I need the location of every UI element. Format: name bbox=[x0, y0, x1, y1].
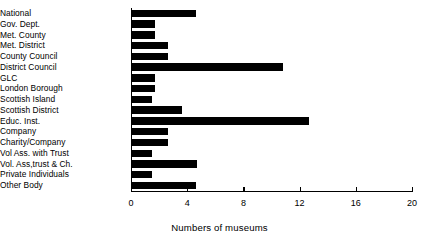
bar-row bbox=[131, 62, 412, 73]
x-axis-tick-label: 20 bbox=[398, 198, 426, 209]
x-axis-title: Numbers of museums bbox=[0, 222, 439, 233]
x-axis-tick bbox=[356, 187, 357, 192]
x-axis-tick-label: 4 bbox=[173, 198, 201, 209]
bar-row bbox=[131, 30, 412, 41]
bar-row bbox=[131, 8, 412, 19]
bar bbox=[131, 128, 168, 135]
bar-row bbox=[131, 137, 412, 148]
category-label: Scottish District bbox=[0, 105, 124, 116]
bar-row bbox=[131, 51, 412, 62]
bar bbox=[131, 63, 283, 70]
category-label: Vol Ass. with Trust bbox=[0, 148, 124, 159]
bar bbox=[131, 85, 155, 92]
category-label: Private Individuals bbox=[0, 169, 124, 180]
category-label: London Borough bbox=[0, 83, 124, 94]
bar bbox=[131, 160, 197, 167]
bar-row bbox=[131, 159, 412, 170]
bar bbox=[131, 42, 168, 49]
bar bbox=[131, 20, 155, 27]
category-label: Scottish Island bbox=[0, 94, 124, 105]
category-label: GLC bbox=[0, 73, 124, 84]
bar bbox=[131, 182, 196, 189]
category-label: Vol. Ass,trust & Ch. bbox=[0, 159, 124, 170]
category-label: Met. County bbox=[0, 30, 124, 41]
category-label: Met. District bbox=[0, 40, 124, 51]
bar bbox=[131, 10, 196, 17]
category-label: Company bbox=[0, 126, 124, 137]
x-axis-tick bbox=[243, 187, 244, 192]
x-axis-tick bbox=[131, 187, 132, 192]
bar bbox=[131, 117, 309, 124]
bar bbox=[131, 106, 182, 113]
bar-row bbox=[131, 105, 412, 116]
plot-area: 048121620 bbox=[131, 8, 412, 191]
bar-row bbox=[131, 126, 412, 137]
category-label: Educ. Inst. bbox=[0, 116, 124, 127]
category-label: District Council bbox=[0, 62, 124, 73]
x-axis-tick-label: 8 bbox=[229, 198, 257, 209]
bar-row bbox=[131, 148, 412, 159]
bar-row bbox=[131, 94, 412, 105]
bar bbox=[131, 53, 168, 60]
bar-row bbox=[131, 40, 412, 51]
category-label: National bbox=[0, 8, 124, 19]
x-axis-tick-label: 12 bbox=[286, 198, 314, 209]
x-axis-tick-label: 16 bbox=[342, 198, 370, 209]
x-axis-tick bbox=[300, 187, 301, 192]
bar-row bbox=[131, 19, 412, 30]
bar-row bbox=[131, 73, 412, 84]
x-axis-tick bbox=[187, 187, 188, 192]
category-label: Other Body bbox=[0, 180, 124, 191]
bar-row bbox=[131, 169, 412, 180]
x-axis-tick bbox=[412, 187, 413, 192]
bar bbox=[131, 74, 155, 81]
category-label: Gov. Dept. bbox=[0, 19, 124, 30]
x-axis-tick-label: 0 bbox=[117, 198, 145, 209]
bar bbox=[131, 150, 152, 157]
category-axis-labels: NationalGov. Dept.Met. CountyMet. Distri… bbox=[0, 8, 124, 191]
bar bbox=[131, 171, 152, 178]
bar-row bbox=[131, 180, 412, 191]
bar-row bbox=[131, 116, 412, 127]
x-axis-line bbox=[131, 191, 412, 192]
bar bbox=[131, 31, 155, 38]
bar-chart: NationalGov. Dept.Met. CountyMet. Distri… bbox=[0, 0, 439, 247]
category-label: Charity/Company bbox=[0, 137, 124, 148]
bar bbox=[131, 139, 168, 146]
bar bbox=[131, 96, 152, 103]
bar-row bbox=[131, 83, 412, 94]
category-label: County Council bbox=[0, 51, 124, 62]
